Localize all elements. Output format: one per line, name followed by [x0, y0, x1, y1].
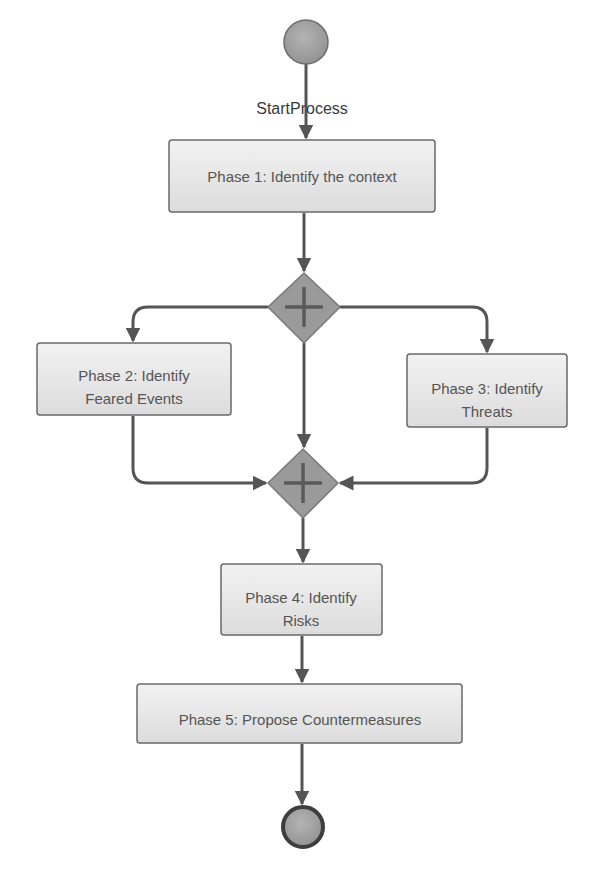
flow-phase2-to-join[interactable]	[133, 416, 266, 483]
task-phase-1-label: Phase 1: Identify the context	[207, 168, 397, 185]
task-phase-4[interactable]: Phase 4: Identify Risks	[221, 564, 382, 635]
flow-split-to-phase3[interactable]	[340, 307, 487, 352]
task-phase-4-label-line1: Phase 4: Identify	[245, 589, 357, 606]
flow-split-to-phase2[interactable]	[133, 307, 268, 341]
flow-phase3-to-join[interactable]	[340, 428, 487, 483]
task-phase-3-label-line2: Threats	[462, 403, 513, 420]
task-phase-5[interactable]: Phase 5: Propose Countermeasures	[137, 684, 462, 743]
process-diagram: StartProcess Phase 1: Identify the conte…	[0, 0, 594, 888]
parallel-gateway-join[interactable]	[268, 449, 338, 518]
task-phase-1[interactable]: Phase 1: Identify the context	[169, 140, 435, 212]
task-phase-2[interactable]: Phase 2: Identify Feared Events	[37, 343, 231, 415]
start-event-circle[interactable]	[284, 20, 328, 64]
parallel-gateway-split[interactable]	[268, 273, 340, 343]
start-event-label: StartProcess	[256, 100, 348, 117]
end-event[interactable]	[283, 807, 323, 847]
task-phase-4-label-line2: Risks	[283, 612, 320, 629]
task-phase-3-label-line1: Phase 3: Identify	[431, 380, 543, 397]
start-event[interactable]	[284, 20, 328, 64]
task-phase-2-label-line2: Feared Events	[85, 390, 183, 407]
task-phase-5-label: Phase 5: Propose Countermeasures	[179, 711, 422, 728]
task-phase-3[interactable]: Phase 3: Identify Threats	[407, 354, 567, 427]
task-phase-2-label-line1: Phase 2: Identify	[78, 367, 190, 384]
end-event-circle[interactable]	[283, 807, 323, 847]
